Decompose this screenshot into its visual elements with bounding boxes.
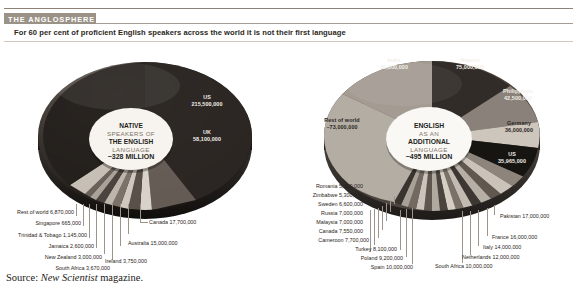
callout-south-africa-left: South Africa 3,670,000 [0,265,110,271]
leader-romania [394,196,395,204]
callout-zimbabwe: Zimbabwe 5,300,000 [288,192,363,198]
callout-russia: Russia 7,000,000 [288,210,363,216]
callout-spain: Spain 10,000,000 [310,264,413,270]
callout-canada: Canada 17,700,000 [149,219,196,225]
callout-romania: Romania 5,300,000 [288,183,363,189]
callout-turkey: Turkey 8,100,000 [300,246,397,252]
leader-poland [406,209,407,257]
native-speakers-donut-chart: US 215,500,000 UK 58,100,000 NATIVE SPEA… [0,44,290,234]
leader-zimbabwe [390,200,391,212]
callout-trinidad-tobago: Trinidad & Tobago 1,145,000 [0,232,87,238]
leader-singapore [83,204,84,226]
leader-rest-of-world-left [76,204,77,216]
top-divider [4,8,573,9]
leader-italy [478,210,479,246]
section-banner-label: THE ANGLOSPHERE [8,14,95,25]
callout-canada-right: Canada 7,550,000 [288,228,363,234]
subtitle-divider [4,41,573,42]
banner-divider [96,23,573,24]
source-prefix: Source: [6,272,41,283]
callout-new-zealand: New Zealand 3,000,000 [0,254,102,260]
leader-canada [140,204,141,222]
leader-sweden [386,203,387,221]
callout-cameroon: Cameroon 7,700,000 [288,237,369,243]
callout-poland: Poland 9,200,000 [305,255,403,261]
slice-label-uk: UK 58,100,000 [178,129,236,142]
leader-canada-h [140,222,148,223]
callout-jamaica: Jamaica 2,600,000 [0,243,94,249]
callout-italy: Italy 14,000,000 [483,244,521,250]
callout-singapore: Singapore 665,000 [0,220,81,226]
callout-malaysia: Malaysia 7,000,000 [288,219,363,225]
slice-label-philippines: Philippines 42,500,000 [487,88,549,101]
callout-sweden: Sweden 6,600,000 [288,201,363,207]
leader-canada-right [374,209,375,245]
leader-pakistan [494,205,495,215]
callout-france: France 16,000,000 [492,234,537,240]
infographic-figure: THE ANGLOSPHERE For 60 per cent of profi… [0,0,577,294]
leader-spain [412,208,413,264]
additional-hub-text: ENGLISH AS AN ADDITIONAL LANGUAGE ~495 M… [386,122,472,162]
callout-netherlands: Netherlands 12,000,000 [462,254,520,260]
slice-label-nigeria: Nigeria 75,000,000 [440,57,500,70]
source-caption: Source: New Scientist magazine. [6,272,143,283]
subtitle: For 60 per cent of proficient English sp… [14,28,534,37]
leader-turkey [400,210,401,250]
leader-australia [128,204,129,234]
leader-jamaica [96,204,97,248]
slice-label-us: US 215,500,000 [178,94,236,107]
slice-label-germany: Germany 36,000,000 [488,120,550,133]
leader-ireland [120,204,121,246]
callout-australia: Australia 15,000,000 [128,240,177,246]
leader-russia [382,206,383,230]
callout-rest-of-world-left: Rest of world 6,870,000 [0,209,74,215]
source-publication: New Scientist [41,272,98,283]
slice-label-rest-of-world-right: Rest of world ~73,000,000 [310,117,374,130]
slice-label-india: India 90,000,000 [364,57,424,70]
leader-new-zealand [104,204,105,254]
callout-pakistan: Pakistan 17,000,000 [500,213,549,219]
leader-trinidad [89,204,90,238]
leader-south-africa [112,204,113,260]
native-hub-text: NATIVE SPEAKERS OF THE ENGLISH LANGUAGE … [89,122,173,162]
leader-france [487,208,488,236]
source-suffix: magazine. [98,272,143,283]
leader-netherlands [470,211,471,255]
slice-label-us-right: US 35,965,000 [482,151,542,164]
callout-south-africa-right-label: South Africa 10,000,000 [435,263,493,269]
callout-ireland: Ireland 3,750,000 [105,258,147,264]
leader-malaysia [378,208,379,238]
